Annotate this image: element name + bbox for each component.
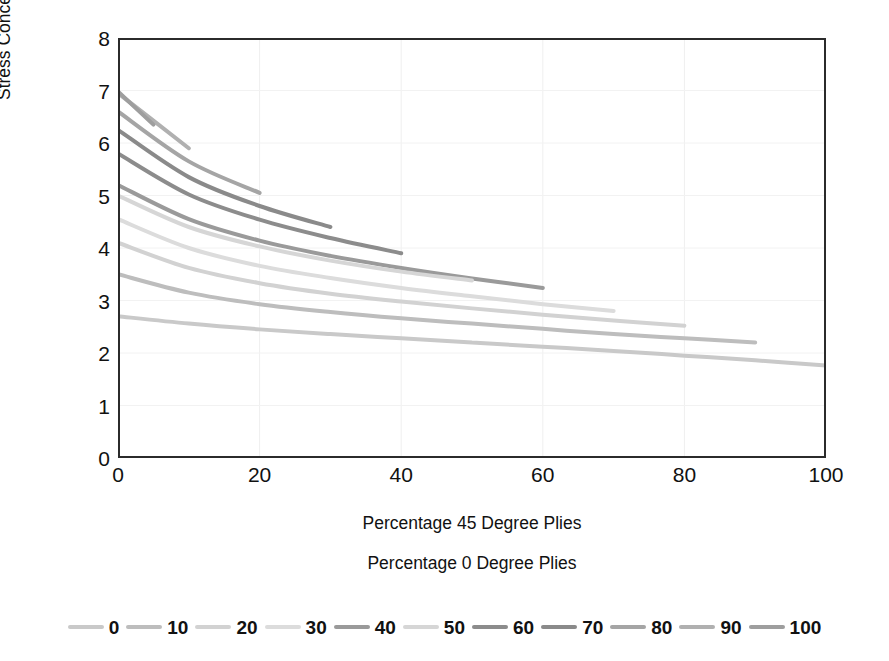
- legend-item[interactable]: 0: [68, 618, 120, 637]
- legend-label: 30: [306, 618, 327, 637]
- plot-area: [118, 38, 826, 458]
- legend-swatch: [334, 625, 370, 629]
- y-axis-tick-labels: 012345678: [78, 38, 110, 458]
- y-axis-tick-label: 6: [98, 133, 110, 154]
- legend-swatch: [68, 625, 104, 629]
- legend-swatch: [195, 625, 231, 629]
- legend-label: 60: [513, 618, 534, 637]
- x-axis-tick-label: 60: [531, 464, 554, 485]
- y-axis-tick-label: 2: [98, 343, 110, 364]
- x-axis-tick-label: 80: [673, 464, 696, 485]
- x-axis-tick-labels: 020406080100: [118, 464, 826, 494]
- legend-item[interactable]: 80: [603, 618, 672, 637]
- legend-swatch: [265, 625, 301, 629]
- y-axis-tick-label: 4: [98, 238, 110, 259]
- legend-item[interactable]: 30: [258, 618, 327, 637]
- legend-swatch: [541, 625, 577, 629]
- legend-item[interactable]: 20: [188, 618, 257, 637]
- y-axis-tick-label: 5: [98, 185, 110, 206]
- legend-item[interactable]: 100: [742, 618, 822, 637]
- legend-item[interactable]: 90: [672, 618, 741, 637]
- legend-item[interactable]: 60: [465, 618, 534, 637]
- legend-swatch: [679, 625, 715, 629]
- y-axis-tick-label: 0: [98, 448, 110, 469]
- y-axis-tick-label: 1: [98, 395, 110, 416]
- legend-item[interactable]: 70: [534, 618, 603, 637]
- legend-label: 20: [236, 618, 257, 637]
- legend-swatch: [610, 625, 646, 629]
- legend-swatch: [472, 625, 508, 629]
- legend-item[interactable]: 10: [119, 618, 188, 637]
- legend-label: 10: [167, 618, 188, 637]
- legend-title: Percentage 0 Degree Plies: [118, 553, 826, 574]
- legend-swatch: [749, 625, 785, 629]
- legend-swatch: [403, 625, 439, 629]
- plot-frame: [118, 38, 826, 458]
- legend-label: 40: [375, 618, 396, 637]
- legend-label: 80: [651, 618, 672, 637]
- legend-label: 70: [582, 618, 603, 637]
- x-axis-title: Percentage 45 Degree Plies: [118, 513, 826, 534]
- y-axis-tick-label: 7: [98, 80, 110, 101]
- y-axis-tick-label: 8: [98, 28, 110, 49]
- legend-item[interactable]: 50: [396, 618, 465, 637]
- legend-label: 90: [720, 618, 741, 637]
- x-axis-tick-label: 20: [248, 464, 271, 485]
- chart-page: Stress Concentration Factor 012345678 02…: [0, 0, 889, 661]
- legend-label: 100: [790, 618, 822, 637]
- legend-label: 50: [444, 618, 465, 637]
- legend-swatch: [126, 625, 162, 629]
- chart-legend: 0102030405060708090100: [0, 612, 889, 642]
- legend-item[interactable]: 40: [327, 618, 396, 637]
- legend-label: 0: [109, 618, 120, 637]
- x-axis-tick-label: 40: [390, 464, 413, 485]
- x-axis-tick-label: 100: [808, 464, 843, 485]
- x-axis-tick-label: 0: [112, 464, 124, 485]
- y-axis-title: Stress Concentration Factor: [0, 0, 15, 100]
- y-axis-tick-label: 3: [98, 290, 110, 311]
